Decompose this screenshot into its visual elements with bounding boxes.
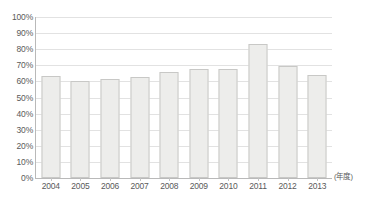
bar-slot	[184, 17, 214, 178]
x-axis-unit-label: (年度)	[334, 172, 353, 182]
plot-area	[36, 17, 332, 178]
x-axis-tick-label: 2011	[243, 181, 273, 192]
bar-slot	[214, 17, 244, 178]
bar	[160, 72, 179, 178]
bar	[248, 44, 267, 178]
bar	[189, 69, 208, 178]
y-axis-tick-label: 10%	[1, 158, 33, 167]
y-axis-tick-label: 20%	[1, 142, 33, 151]
bar-slot	[302, 17, 332, 178]
y-axis-tick-labels: 100%90%80%70%60%50%40%30%20%10%0%	[0, 17, 33, 178]
x-axis-tick-label: 2007	[125, 181, 155, 192]
bar	[308, 75, 327, 178]
x-axis-tick-label: 2006	[95, 181, 125, 192]
y-axis-tick-label: 40%	[1, 110, 33, 119]
bar-slot	[66, 17, 96, 178]
y-axis-tick-label: 70%	[1, 61, 33, 70]
bar	[130, 77, 149, 178]
bar-slot	[273, 17, 303, 178]
bar	[41, 76, 60, 178]
bar	[219, 69, 238, 178]
bar	[278, 66, 297, 178]
bar-slot	[95, 17, 125, 178]
x-axis-tick-label: 2009	[184, 181, 214, 192]
x-axis-tick-label: 2005	[66, 181, 96, 192]
bar-slot	[154, 17, 184, 178]
bar-slot	[125, 17, 155, 178]
x-axis-tick-label: 2013	[302, 181, 332, 192]
y-axis-tick-label: 0%	[1, 174, 33, 183]
y-axis-tick-label: 80%	[1, 45, 33, 54]
x-axis-tick-label: 2010	[214, 181, 244, 192]
bar	[71, 81, 90, 178]
y-axis-tick-label: 50%	[1, 94, 33, 103]
y-axis-tick-label: 30%	[1, 126, 33, 135]
x-axis-tick-label: 2004	[36, 181, 66, 192]
bar-slot	[36, 17, 66, 178]
bar-slot	[243, 17, 273, 178]
x-axis-tick-label: 2012	[273, 181, 303, 192]
y-axis-tick-label: 100%	[1, 13, 33, 22]
x-axis-tick-labels: 2004200520062007200820092010201120122013	[36, 181, 332, 195]
bar-chart: 100%90%80%70%60%50%40%30%20%10%0% 200420…	[0, 0, 369, 205]
x-axis-tick-label: 2008	[154, 181, 184, 192]
bar	[100, 79, 119, 178]
y-axis-tick-label: 90%	[1, 29, 33, 38]
y-axis-tick-label: 60%	[1, 77, 33, 86]
